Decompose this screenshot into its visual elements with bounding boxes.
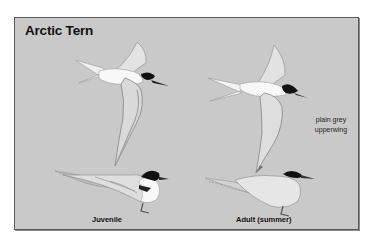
juvenile-perched-illustration	[55, 163, 170, 223]
plate-title: Arctic Tern	[25, 23, 93, 38]
illustration-plate: Arctic Tern plain grey upperwing	[14, 17, 359, 230]
adult-summer-label: Adult (summer)	[236, 215, 291, 224]
juvenile-label: Juvenile	[92, 215, 122, 224]
upperwing-annotation: plain grey upperwing	[306, 115, 356, 135]
juvenile-flight-illustration	[75, 38, 175, 173]
adult-flight-illustration	[208, 43, 318, 178]
